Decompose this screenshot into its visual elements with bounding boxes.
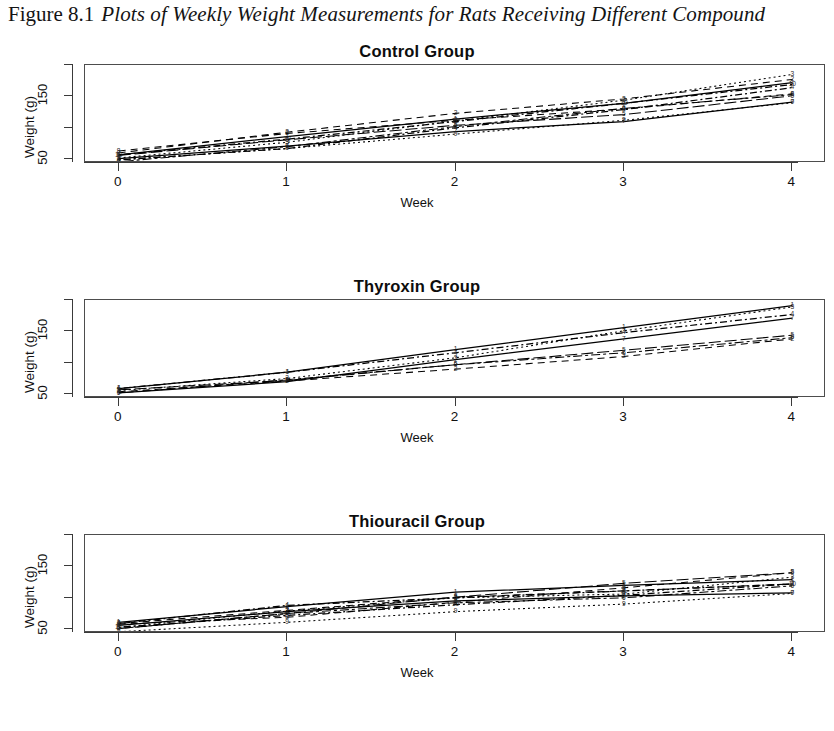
x-tick-thiouracil-1 — [286, 632, 287, 641]
x-tick-control-1 — [286, 162, 287, 171]
y-tick-thiouracil-50 — [64, 628, 73, 629]
x-tick-label-thiouracil-4: 4 — [776, 644, 806, 659]
plot-area-thiouracil: Weight (g) 11111222223333344444555556666… — [0, 534, 834, 684]
obs-marker-thiouracil-8-w4: 8 — [790, 568, 794, 575]
x-tick-label-thyroxin-4: 4 — [776, 409, 806, 424]
obs-marker-thiouracil-10-w2: 10 — [452, 600, 460, 607]
y-axis-line-thiouracil — [72, 534, 73, 632]
y-tick-control-150 — [64, 95, 73, 96]
obs-marker-control-9-w1: 9 — [285, 144, 289, 151]
y-tick-thyroxin-200 — [64, 299, 73, 300]
obs-marker-control-10-w3: 10 — [620, 99, 628, 106]
x-tick-label-thiouracil-1: 1 — [271, 644, 301, 659]
x-axis-title-thiouracil: Week — [0, 665, 834, 680]
figure-caption: Figure 8.1Plots of Weekly Weight Measure… — [8, 0, 834, 30]
y-axis-line-control — [72, 64, 73, 162]
chart-title-control: Control Group — [0, 42, 834, 61]
obs-marker-control-10-w0: 10 — [115, 151, 123, 158]
y-tick-label-control-150: 150 — [35, 75, 50, 115]
x-tick-label-control-1: 1 — [271, 174, 301, 189]
chart-title-thiouracil: Thiouracil Group — [0, 512, 834, 531]
obs-marker-thyroxin-7-w2: 7 — [454, 355, 458, 362]
obs-marker-thiouracil-10-w1: 10 — [283, 611, 291, 618]
x-tick-label-thyroxin-1: 1 — [271, 409, 301, 424]
x-axis-title-control: Week — [0, 195, 834, 210]
x-tick-thiouracil-2 — [455, 632, 456, 641]
series-layer-thyroxin: 11111222223333344444555556666677777 — [85, 300, 825, 397]
obs-marker-control-10-w1: 10 — [283, 135, 291, 142]
obs-marker-thiouracil-10-w4: 10 — [789, 580, 797, 587]
figure-caption-text: Plots of Weekly Weight Measurements for … — [101, 2, 765, 26]
x-axis-line-control — [84, 162, 798, 163]
x-axis-line-thyroxin — [84, 397, 798, 398]
y-tick-label-thiouracil-50: 50 — [35, 608, 50, 648]
x-tick-thyroxin-1 — [286, 397, 287, 406]
x-tick-thyroxin-0 — [118, 397, 119, 406]
obs-marker-control-8-w4: 8 — [790, 90, 794, 97]
obs-marker-control-9-w3: 9 — [622, 116, 626, 123]
y-tick-control-50 — [64, 158, 73, 159]
figure-number: Figure 8.1 — [8, 2, 94, 26]
x-tick-thyroxin-3 — [623, 397, 624, 406]
obs-marker-thiouracil-9-w2: 9 — [454, 607, 458, 614]
x-tick-label-control-3: 3 — [608, 174, 638, 189]
x-tick-thiouracil-0 — [118, 632, 119, 641]
x-axis-title-thyroxin: Week — [0, 430, 834, 445]
x-tick-control-3 — [623, 162, 624, 171]
x-tick-thyroxin-4 — [791, 397, 792, 406]
x-tick-label-thiouracil-2: 2 — [440, 644, 470, 659]
obs-marker-thyroxin-6-w4: 6 — [790, 333, 794, 340]
obs-marker-thyroxin-7-w4: 7 — [790, 314, 794, 321]
y-tick-label-thiouracil-150: 150 — [35, 545, 50, 585]
obs-marker-thyroxin-4-w1: 4 — [285, 368, 289, 375]
x-tick-label-thiouracil-3: 3 — [608, 644, 638, 659]
obs-marker-thyroxin-6-w3: 6 — [622, 349, 626, 356]
x-tick-control-2 — [455, 162, 456, 171]
x-tick-label-control-0: 0 — [103, 174, 133, 189]
obs-marker-control-9-w4: 9 — [790, 98, 794, 105]
chart-title-thyroxin: Thyroxin Group — [0, 277, 834, 296]
x-tick-label-thyroxin-3: 3 — [608, 409, 638, 424]
obs-marker-thyroxin-7-w1: 7 — [285, 377, 289, 384]
y-tick-label-thyroxin-50: 50 — [35, 373, 50, 413]
series-layer-thiouracil: 1111122222333334444455555666667777788888… — [85, 535, 825, 632]
obs-marker-thyroxin-7-w3: 7 — [622, 335, 626, 342]
x-tick-thyroxin-2 — [455, 397, 456, 406]
obs-marker-control-3-w4: 3 — [790, 70, 794, 77]
y-tick-label-thyroxin-150: 150 — [35, 310, 50, 350]
obs-marker-thiouracil-10-w0: 10 — [115, 623, 123, 630]
y-tick-control-200 — [64, 64, 73, 65]
y-tick-thyroxin-50 — [64, 393, 73, 394]
x-tick-label-thyroxin-0: 0 — [103, 409, 133, 424]
x-tick-thiouracil-4 — [791, 632, 792, 641]
plot-box-thiouracil: 1111122222333334444455555666667777788888… — [84, 534, 825, 632]
y-tick-thyroxin-150 — [64, 330, 73, 331]
plot-box-thyroxin: 11111222223333344444555556666677777 — [84, 299, 825, 397]
y-axis-line-thyroxin — [72, 299, 73, 397]
y-tick-thiouracil-200 — [64, 534, 73, 535]
obs-marker-thiouracil-9-w4: 9 — [790, 589, 794, 596]
x-axis-line-thiouracil — [84, 632, 798, 633]
x-tick-label-control-2: 2 — [440, 174, 470, 189]
obs-marker-thiouracil-10-w3: 10 — [620, 591, 628, 598]
y-tick-label-control-50: 50 — [35, 138, 50, 178]
x-tick-control-0 — [118, 162, 119, 171]
obs-marker-control-9-w2: 9 — [454, 130, 458, 137]
obs-marker-thyroxin-7-w0: 7 — [117, 389, 121, 396]
y-tick-thyroxin-100 — [64, 362, 73, 363]
plot-area-thyroxin: Weight (g) 11111222223333344444555556666… — [0, 299, 834, 449]
plot-box-control: 1111122222333334444455555666667777788888… — [84, 64, 825, 162]
obs-marker-thiouracil-8-w3: 8 — [622, 584, 626, 591]
x-tick-control-4 — [791, 162, 792, 171]
y-tick-thiouracil-150 — [64, 565, 73, 566]
y-tick-thiouracil-100 — [64, 597, 73, 598]
plot-area-control: Weight (g) 11111222223333344444555556666… — [0, 64, 834, 214]
x-tick-label-thyroxin-2: 2 — [440, 409, 470, 424]
y-tick-control-100 — [64, 127, 73, 128]
obs-marker-control-10-w4: 10 — [789, 80, 797, 87]
x-tick-thiouracil-3 — [623, 632, 624, 641]
x-tick-label-thiouracil-0: 0 — [103, 644, 133, 659]
obs-marker-thiouracil-9-w3: 9 — [622, 600, 626, 607]
x-tick-label-control-4: 4 — [776, 174, 806, 189]
obs-marker-thyroxin-3-w4: 3 — [790, 303, 794, 310]
